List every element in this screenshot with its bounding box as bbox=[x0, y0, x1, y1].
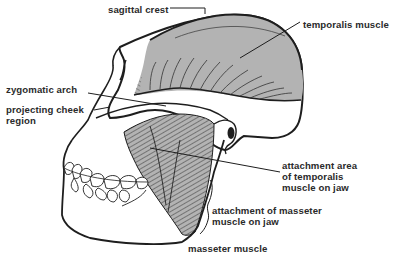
label-sagittal-crest: sagittal crest bbox=[108, 4, 169, 15]
face-outline bbox=[72, 47, 120, 140]
label-masseter-muscle: masseter muscle bbox=[188, 243, 267, 254]
ear-opening bbox=[228, 127, 235, 139]
label-projecting-cheek-region: projecting cheek region bbox=[6, 104, 84, 126]
skull-muscle-diagram: sagittal crest temporalis muscle zygomat… bbox=[0, 0, 394, 255]
label-temporalis-muscle: temporalis muscle bbox=[303, 19, 389, 30]
label-attachment-temporalis: attachment area of temporalis muscle on … bbox=[282, 160, 357, 193]
label-zygomatic-arch: zygomatic arch bbox=[6, 84, 77, 95]
skull-illustration bbox=[0, 0, 394, 255]
teeth bbox=[64, 162, 148, 202]
label-attachment-masseter: attachment of masseter muscle on jaw bbox=[212, 205, 322, 227]
